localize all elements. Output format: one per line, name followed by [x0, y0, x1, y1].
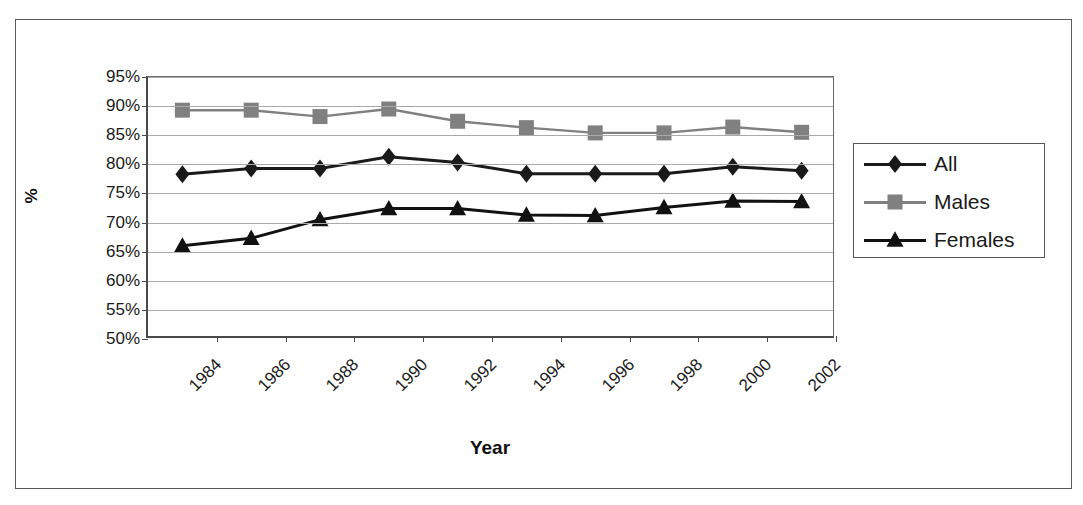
legend-marker-glyph [862, 191, 928, 213]
legend-marker-square-icon [862, 191, 928, 213]
legend-item-label: Males [934, 190, 990, 214]
legend-marker-diamond-icon [862, 153, 928, 175]
legend-marker-glyph [862, 229, 928, 251]
x-axis-title: Year [146, 437, 834, 459]
legend-item-males[interactable]: Males [854, 183, 1044, 221]
legend-item-females[interactable]: Females [854, 221, 1044, 259]
legend-item-label: Females [934, 228, 1015, 252]
chart-legend: AllMalesFemales [853, 143, 1045, 258]
legend-item-all[interactable]: All [854, 145, 1044, 183]
legend-marker-triangle-icon [862, 229, 928, 251]
chart-figure: % 95%90%85%80%75%70%65%60%55%50% 1984198… [0, 0, 1083, 505]
legend-item-label: All [934, 152, 957, 176]
legend-marker-glyph [862, 153, 928, 175]
